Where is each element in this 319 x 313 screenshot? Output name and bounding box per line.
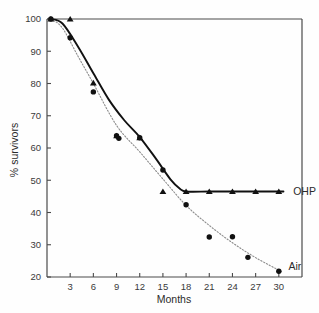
y-tick-label: 30 — [30, 239, 41, 250]
y-tick-label: 20 — [30, 271, 41, 282]
data-point-air — [48, 16, 53, 21]
x-tick-label: 21 — [204, 281, 215, 292]
x-tick-label: 6 — [91, 281, 96, 292]
data-point-air — [207, 234, 212, 239]
data-point-air — [67, 35, 72, 40]
y-tick-label: 40 — [30, 207, 41, 218]
series-label-ohp: OHP — [293, 185, 316, 197]
x-tick-label: 15 — [158, 281, 169, 292]
data-point-air — [276, 268, 281, 273]
x-axis-title: Months — [157, 293, 191, 305]
x-tick-label: 27 — [250, 281, 261, 292]
x-tick-label: 30 — [274, 281, 285, 292]
x-tick-label: 9 — [114, 281, 119, 292]
data-point-air — [137, 135, 142, 140]
x-tick-label: 24 — [227, 281, 238, 292]
data-point-air — [183, 202, 188, 207]
chart-canvas: 2030405060708090100 36912151821242730 OH… — [0, 0, 319, 313]
y-tick-label: 70 — [30, 110, 41, 121]
data-point-air — [116, 136, 121, 141]
y-tick-label: 90 — [30, 46, 41, 57]
data-point-air — [230, 234, 235, 239]
chart-background — [0, 0, 319, 313]
data-point-air — [91, 89, 96, 94]
data-point-air — [245, 255, 250, 260]
data-point-air — [160, 167, 165, 172]
y-tick-label: 60 — [30, 142, 41, 153]
x-tick-label: 3 — [68, 281, 73, 292]
x-tick-label: 18 — [181, 281, 192, 292]
y-tick-label: 80 — [30, 78, 41, 89]
series-label-air: Air — [289, 260, 302, 272]
y-tick-label: 50 — [30, 175, 41, 186]
y-axis-title: % survivors — [8, 123, 20, 177]
x-tick-label: 12 — [134, 281, 145, 292]
survival-curve-figure: 2030405060708090100 36912151821242730 OH… — [0, 0, 319, 313]
y-tick-label: 100 — [25, 13, 41, 24]
